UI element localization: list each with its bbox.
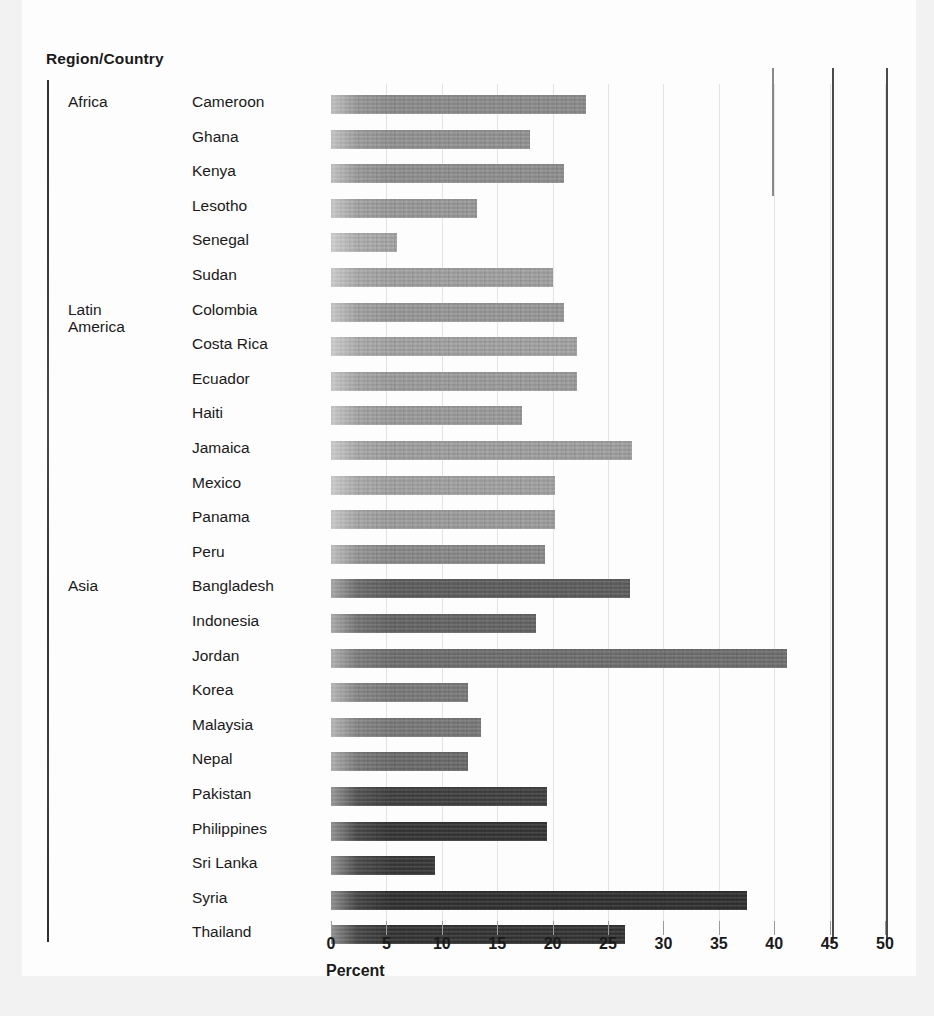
- chart-row: Korea: [46, 674, 906, 710]
- chart-row: Indonesia: [46, 605, 906, 641]
- country-label-indonesia: Indonesia: [192, 612, 259, 630]
- bar-fill: [331, 718, 481, 737]
- chart-row: Sudan: [46, 259, 906, 295]
- chart-row: Latin AmericaColombia: [46, 294, 906, 330]
- bar-mexico: [331, 476, 555, 495]
- country-label-jamaica: Jamaica: [192, 439, 250, 457]
- country-label-costa-rica: Costa Rica: [192, 335, 268, 353]
- bar-fill: [331, 337, 577, 356]
- country-label-haiti: Haiti: [192, 404, 223, 422]
- bar-philippines: [331, 822, 547, 841]
- x-tick-label-10: 10: [433, 935, 451, 953]
- bar-fill: [331, 787, 547, 806]
- country-label-syria: Syria: [192, 889, 227, 907]
- x-tick-mark-0: [331, 921, 332, 935]
- x-tick-mark-50: [885, 921, 886, 935]
- x-tick-label-0: 0: [327, 935, 336, 953]
- bar-malaysia: [331, 718, 481, 737]
- x-tick-label-35: 35: [710, 935, 728, 953]
- chart-row: Costa Rica: [46, 328, 906, 364]
- country-label-jordan: Jordan: [192, 647, 239, 665]
- bar-fill: [331, 752, 468, 771]
- chart-row: Jamaica: [46, 432, 906, 468]
- chart-row: Jordan: [46, 640, 906, 676]
- chart-row: AsiaBangladesh: [46, 570, 906, 606]
- bar-costa-rica: [331, 337, 577, 356]
- bar-fill: [331, 372, 577, 391]
- chart-page: Region/Country AfricaCameroonGhanaKenyaL…: [0, 0, 934, 1016]
- country-label-thailand: Thailand: [192, 923, 251, 941]
- x-tick-label-30: 30: [654, 935, 672, 953]
- x-tick-mark-5: [386, 921, 387, 935]
- bar-nepal: [331, 752, 468, 771]
- x-tick-label-50: 50: [876, 935, 894, 953]
- chart-row: Peru: [46, 536, 906, 572]
- bar-haiti: [331, 406, 522, 425]
- bar-panama: [331, 510, 555, 529]
- country-label-ecuador: Ecuador: [192, 370, 250, 388]
- country-label-lesotho: Lesotho: [192, 197, 247, 215]
- bar-colombia: [331, 303, 564, 322]
- chart-row: Ecuador: [46, 363, 906, 399]
- country-label-panama: Panama: [192, 508, 250, 526]
- bar-fill: [331, 95, 586, 114]
- x-tick-label-20: 20: [544, 935, 562, 953]
- region-label: Asia: [68, 577, 98, 594]
- bar-fill: [331, 545, 545, 564]
- x-tick-mark-10: [442, 921, 443, 935]
- chart-row: Lesotho: [46, 190, 906, 226]
- region-label: Africa: [68, 93, 108, 110]
- x-tick-label-40: 40: [765, 935, 783, 953]
- bar-fill: [331, 891, 747, 910]
- bar-fill: [331, 130, 530, 149]
- bar-fill: [331, 406, 522, 425]
- chart-row: Kenya: [46, 155, 906, 191]
- bar-fill: [331, 510, 555, 529]
- bar-pakistan: [331, 787, 547, 806]
- country-label-sri-lanka: Sri Lanka: [192, 854, 257, 872]
- country-label-colombia: Colombia: [192, 301, 257, 319]
- bar-ecuador: [331, 372, 577, 391]
- bar-fill: [331, 268, 553, 287]
- x-tick-label-15: 15: [488, 935, 506, 953]
- country-label-korea: Korea: [192, 681, 233, 699]
- bar-fill: [331, 233, 397, 252]
- x-tick-mark-15: [497, 921, 498, 935]
- bar-jamaica: [331, 441, 632, 460]
- x-tick-label-5: 5: [382, 935, 391, 953]
- country-label-malaysia: Malaysia: [192, 716, 253, 734]
- x-tick-mark-25: [608, 921, 609, 935]
- bar-fill: [331, 822, 547, 841]
- x-tick-mark-35: [719, 921, 720, 935]
- bar-bangladesh: [331, 579, 630, 598]
- country-label-pakistan: Pakistan: [192, 785, 251, 803]
- country-label-peru: Peru: [192, 543, 225, 561]
- chart-row: Mexico: [46, 467, 906, 503]
- bar-fill: [331, 649, 787, 668]
- bar-peru: [331, 545, 545, 564]
- bar-kenya: [331, 164, 564, 183]
- chart-row: Sri Lanka: [46, 847, 906, 883]
- chart-row: Malaysia: [46, 709, 906, 745]
- country-label-cameroon: Cameroon: [192, 93, 264, 111]
- country-label-nepal: Nepal: [192, 750, 233, 768]
- bar-indonesia: [331, 614, 536, 633]
- chart-row: AfricaCameroon: [46, 86, 906, 122]
- country-label-ghana: Ghana: [192, 128, 239, 146]
- country-label-mexico: Mexico: [192, 474, 241, 492]
- bar-fill: [331, 856, 435, 875]
- bar-fill: [331, 579, 630, 598]
- x-axis: 05101520253035404550: [331, 935, 891, 936]
- x-tick-mark-20: [553, 921, 554, 935]
- country-label-sudan: Sudan: [192, 266, 237, 284]
- bar-jordan: [331, 649, 787, 668]
- chart-row: Haiti: [46, 397, 906, 433]
- x-tick-label-45: 45: [821, 935, 839, 953]
- country-label-senegal: Senegal: [192, 231, 249, 249]
- bar-korea: [331, 683, 468, 702]
- bar-lesotho: [331, 199, 477, 218]
- bar-fill: [331, 164, 564, 183]
- chart-row: Pakistan: [46, 778, 906, 814]
- bar-cameroon: [331, 95, 586, 114]
- x-tick-mark-30: [663, 921, 664, 935]
